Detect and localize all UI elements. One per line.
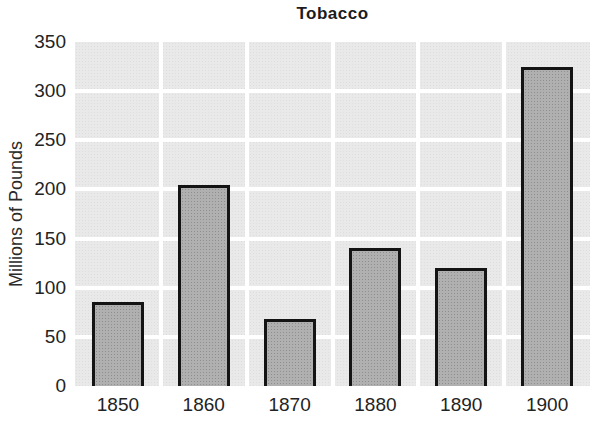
vertical-gridline: [416, 42, 420, 386]
x-tick-label-1890: 1890: [418, 394, 504, 416]
vertical-gridline: [502, 42, 506, 386]
bar-1870: [264, 319, 316, 386]
vertical-gridline: [245, 42, 249, 386]
y-tick-label-250: 250: [0, 130, 66, 150]
plot-area: [75, 42, 590, 386]
y-tick-label-0: 0: [0, 376, 66, 396]
bar-1860: [178, 185, 230, 386]
bar-1850: [92, 302, 144, 386]
vertical-gridline: [159, 42, 163, 386]
y-tick-label-350: 350: [0, 32, 66, 52]
x-tick-label-1870: 1870: [247, 394, 333, 416]
tobacco-bar-chart: Tobacco Millions of Pounds 0501001502002…: [0, 0, 598, 432]
y-tick-label-100: 100: [0, 278, 66, 298]
bar-1890: [435, 268, 487, 386]
x-tick-label-1860: 1860: [161, 394, 247, 416]
y-tick-label-200: 200: [0, 179, 66, 199]
x-tick-label-1900: 1900: [504, 394, 590, 416]
y-tick-label-50: 50: [0, 327, 66, 347]
bar-1900: [521, 67, 573, 386]
y-axis-label: Millions of Pounds: [6, 141, 27, 287]
chart-title: Tobacco: [75, 4, 590, 24]
y-tick-label-150: 150: [0, 229, 66, 249]
y-tick-label-300: 300: [0, 81, 66, 101]
vertical-gridline: [331, 42, 335, 386]
bar-1880: [349, 248, 401, 386]
x-tick-label-1850: 1850: [75, 394, 161, 416]
x-tick-label-1880: 1880: [332, 394, 418, 416]
